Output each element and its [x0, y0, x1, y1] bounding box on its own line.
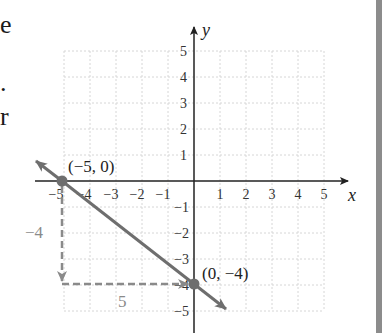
svg-text:3: 3: [180, 96, 187, 111]
rise-label: −4: [25, 223, 44, 242]
svg-text:2: 2: [243, 187, 250, 202]
coordinate-graph: x y −5 −4 −3 −2 −1 1 2 3 4 5 5 4 3 2 1 −…: [0, 0, 382, 333]
x-axis-label: x: [347, 185, 356, 205]
svg-text:−3: −3: [174, 252, 189, 267]
point-x-intercept-label: (−5, 0): [68, 157, 114, 176]
y-axis-label: y: [200, 20, 210, 40]
point-y-intercept-label: (0, −4): [202, 264, 248, 283]
svg-text:−3: −3: [104, 187, 119, 202]
run-label: 5: [118, 292, 127, 311]
svg-text:5: 5: [321, 187, 328, 202]
svg-text:1: 1: [180, 148, 187, 163]
point-x-intercept: [57, 176, 68, 187]
svg-text:−1: −1: [174, 200, 189, 215]
svg-text:1: 1: [217, 187, 224, 202]
svg-text:2: 2: [180, 122, 187, 137]
point-y-intercept: [189, 279, 200, 290]
svg-text:−2: −2: [174, 226, 189, 241]
svg-text:−5: −5: [174, 304, 189, 319]
svg-text:−1: −1: [156, 187, 171, 202]
svg-text:3: 3: [269, 187, 276, 202]
svg-text:4: 4: [295, 187, 302, 202]
svg-text:4: 4: [180, 70, 187, 85]
svg-text:−2: −2: [130, 187, 145, 202]
svg-text:5: 5: [180, 44, 187, 59]
